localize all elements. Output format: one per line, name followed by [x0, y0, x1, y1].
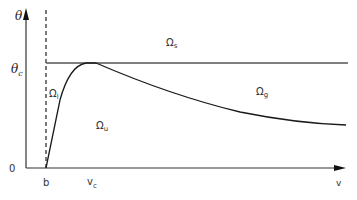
- x-axis-label: v: [336, 178, 342, 188]
- x-tick-b: b: [43, 177, 49, 188]
- diagram-canvas: θ θc 0 b vc v Ωs Ωl Ωu Ωg: [0, 0, 357, 200]
- region-label-g: Ωg: [256, 86, 268, 99]
- x-tick-vc: vc: [87, 176, 97, 190]
- x-axis-arrow-icon: [334, 165, 346, 171]
- y-axis-label: θ: [15, 9, 23, 23]
- region-label-s: Ωs: [166, 37, 178, 50]
- region-label-u: Ωu: [96, 120, 108, 133]
- boundary-curve: [46, 63, 346, 168]
- origin-label: 0: [9, 163, 15, 174]
- phase-diagram: θ θc 0 b vc v Ωs Ωl Ωu Ωg: [0, 0, 357, 200]
- y-tick-theta-c: θc: [11, 62, 23, 78]
- region-label-l: Ωl: [49, 88, 59, 101]
- y-axis-arrow-icon: [23, 8, 29, 20]
